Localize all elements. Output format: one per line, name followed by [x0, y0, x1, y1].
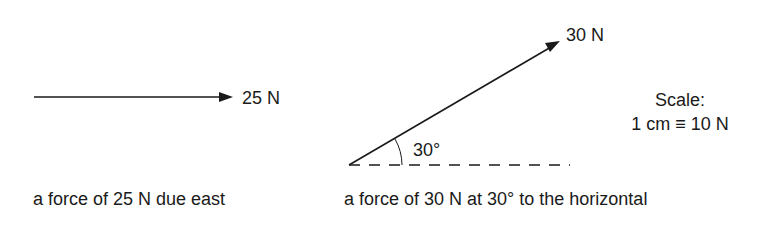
force-vector-25n — [34, 92, 233, 102]
scale-value: 1 cm ≡ 10 N — [605, 112, 755, 136]
caption-left: a force of 25 N due east — [33, 190, 225, 208]
force-vector-30n — [349, 41, 560, 165]
scale-title: Scale: — [605, 88, 755, 112]
force-label-25n: 25 N — [242, 89, 280, 107]
arrowhead-icon — [545, 41, 560, 52]
force-label-30n: 30 N — [566, 26, 604, 44]
angle-label: 30° — [413, 141, 440, 159]
angle-arc-icon — [395, 139, 402, 165]
scale-note: Scale: 1 cm ≡ 10 N — [605, 88, 755, 136]
caption-right: a force of 30 N at 30° to the horizontal — [344, 190, 647, 208]
arrowhead-icon — [219, 92, 233, 102]
